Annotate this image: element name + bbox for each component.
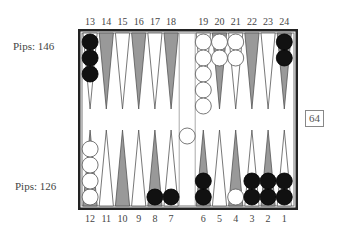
point-number-17: 17: [147, 16, 163, 27]
point-number-18: 18: [163, 16, 179, 27]
white-checker[interactable]: [195, 34, 211, 50]
point-number-7: 7: [163, 213, 179, 224]
board-graphic[interactable]: [78, 29, 298, 210]
white-checker[interactable]: [228, 189, 244, 205]
black-checker[interactable]: [276, 173, 292, 189]
top-player-pip-count: Pips: 146: [13, 40, 54, 52]
white-checker[interactable]: [195, 98, 211, 114]
black-checker[interactable]: [260, 173, 276, 189]
point-number-5: 5: [212, 213, 228, 224]
backgammon-board[interactable]: [78, 29, 298, 210]
black-checker[interactable]: [276, 34, 292, 50]
point-number-12: 12: [82, 213, 98, 224]
point-number-6: 6: [195, 213, 211, 224]
black-checker[interactable]: [195, 173, 211, 189]
point-number-19: 19: [195, 16, 211, 27]
black-checker[interactable]: [163, 189, 179, 205]
white-checker[interactable]: [212, 34, 228, 50]
point-number-16: 16: [131, 16, 147, 27]
black-checker[interactable]: [276, 50, 292, 66]
black-checker[interactable]: [244, 189, 260, 205]
bottom-player-pip-count: Pips: 126: [15, 180, 56, 192]
point-number-8: 8: [147, 213, 163, 224]
black-checker[interactable]: [147, 189, 163, 205]
black-checker[interactable]: [82, 50, 98, 66]
point-number-21: 21: [228, 16, 244, 27]
point-number-24: 24: [276, 16, 292, 27]
point-number-11: 11: [98, 213, 114, 224]
white-checker[interactable]: [195, 66, 211, 82]
black-checker[interactable]: [82, 66, 98, 82]
point-number-23: 23: [260, 16, 276, 27]
point-number-2: 2: [260, 213, 276, 224]
doubling-cube[interactable]: 64: [305, 110, 324, 127]
white-checker[interactable]: [195, 82, 211, 98]
point-number-3: 3: [244, 213, 260, 224]
black-checker[interactable]: [82, 34, 98, 50]
point-number-10: 10: [115, 213, 131, 224]
point-number-15: 15: [115, 16, 131, 27]
point-number-1: 1: [276, 213, 292, 224]
white-checker[interactable]: [82, 141, 98, 157]
point-number-14: 14: [98, 16, 114, 27]
point-number-13: 13: [82, 16, 98, 27]
white-checker[interactable]: [82, 189, 98, 205]
point-number-22: 22: [244, 16, 260, 27]
white-checker[interactable]: [82, 157, 98, 173]
point-number-4: 4: [228, 213, 244, 224]
black-checker[interactable]: [276, 189, 292, 205]
black-checker[interactable]: [195, 189, 211, 205]
white-checker[interactable]: [212, 50, 228, 66]
white-checker[interactable]: [228, 50, 244, 66]
black-checker[interactable]: [244, 173, 260, 189]
white-checker[interactable]: [195, 50, 211, 66]
point-number-20: 20: [212, 16, 228, 27]
black-checker[interactable]: [260, 189, 276, 205]
bar-white-checker[interactable]: [179, 128, 195, 144]
white-checker[interactable]: [228, 34, 244, 50]
white-checker[interactable]: [82, 173, 98, 189]
point-number-9: 9: [131, 213, 147, 224]
